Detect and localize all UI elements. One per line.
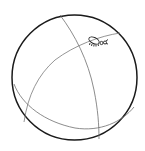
lower-curve [14,84,134,129]
meridian-curve [60,15,99,139]
sphere-outline [12,15,137,140]
equator-curve [24,33,120,122]
sphere-drawing [0,0,145,151]
